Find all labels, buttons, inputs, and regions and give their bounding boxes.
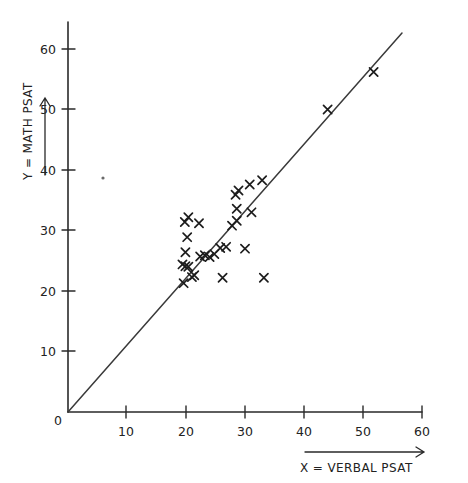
data-point-marker: [234, 186, 242, 194]
y-tick-label-30: 30: [40, 223, 56, 238]
x-tick-label-50: 50: [355, 424, 371, 439]
x-tick-label-30: 30: [237, 424, 253, 439]
ink-speck-artifact: [101, 176, 104, 179]
scatter-plot-figure: 10 20 30 40 50 60 10 20 30 40 50 60 0 X …: [0, 0, 468, 483]
x-tick-label-20: 20: [178, 424, 194, 439]
y-tick-label-20: 20: [40, 284, 56, 299]
x-tick-label-10: 10: [118, 424, 134, 439]
x-axis-title: X = VERBAL PSAT: [300, 461, 413, 475]
x-tick-labels: 10 20 30 40 50 60: [118, 424, 430, 439]
data-point-marker: [183, 233, 191, 241]
data-point-marker: [258, 176, 266, 184]
y-tick-label-10: 10: [40, 344, 56, 359]
data-point-marker: [370, 68, 378, 76]
data-point-marker: [222, 243, 230, 251]
data-point-marker: [181, 248, 189, 256]
data-point-marker: [233, 205, 241, 213]
x-axis-title-group: X = VERBAL PSAT: [300, 447, 424, 475]
data-point-marker: [181, 218, 189, 226]
y-tick-labels: 10 20 30 40 50 60: [40, 42, 56, 359]
data-point-marker: [231, 191, 239, 199]
data-point-layer: [178, 68, 377, 287]
plot-canvas: 10 20 30 40 50 60 10 20 30 40 50 60 0 X …: [0, 0, 468, 483]
data-point-marker: [246, 180, 254, 188]
y-axis-title-group: Y = MATH PSAT: [21, 82, 50, 181]
data-point-marker: [190, 271, 198, 279]
y-axis-title: Y = MATH PSAT: [21, 82, 35, 181]
data-point-marker: [195, 219, 203, 227]
origin-label: 0: [54, 413, 62, 428]
x-axis-arrow-icon: [305, 447, 424, 457]
data-point-marker: [241, 245, 249, 253]
data-point-marker: [184, 213, 192, 221]
data-point-marker: [233, 217, 241, 225]
x-tick-label-60: 60: [414, 424, 430, 439]
y-tick-label-40: 40: [40, 163, 56, 178]
data-point-marker: [247, 208, 255, 216]
x-tick-label-40: 40: [296, 424, 312, 439]
data-point-marker: [260, 274, 268, 282]
y-tick-label-60: 60: [40, 42, 56, 57]
y-tick-label-50: 50: [40, 102, 56, 117]
data-point-marker: [218, 274, 226, 282]
data-point-marker: [324, 105, 332, 113]
axes-group: [68, 22, 422, 412]
